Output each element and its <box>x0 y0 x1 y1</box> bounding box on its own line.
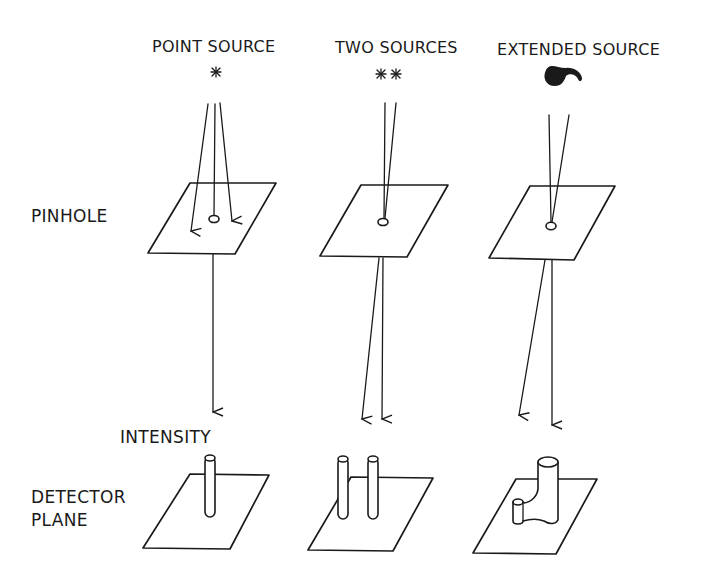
point-source-column <box>143 103 276 549</box>
ray-out-left <box>362 258 379 419</box>
extended-source-column <box>473 115 615 554</box>
intensity-peak-icon <box>338 456 348 519</box>
two-sources-column <box>308 103 448 551</box>
pinhole-aperture <box>546 222 556 230</box>
row-label-pinhole: PINHOLE <box>31 206 107 226</box>
pinhole-camera-diagram: POINT SOURCE TWO SOURCES EXTENDED SOURCE… <box>0 0 704 585</box>
double-asterisk-icon <box>376 69 401 79</box>
ray-out-right <box>382 258 383 419</box>
intensity-peak-icon <box>205 455 215 517</box>
pinhole-aperture <box>209 216 219 223</box>
column-title-extended-source: EXTENDED SOURCE <box>497 40 660 59</box>
row-label-detector: DETECTOR <box>31 487 126 507</box>
row-label-plane: PLANE <box>31 510 88 530</box>
row-label-intensity: INTENSITY <box>120 427 211 447</box>
ray-out-left <box>519 260 545 415</box>
column-title-two-sources: TWO SOURCES <box>334 38 458 57</box>
pinhole-aperture <box>378 219 388 226</box>
column-title-point-source: POINT SOURCE <box>152 37 275 56</box>
intensity-peak-icon <box>368 456 378 519</box>
asterisk-icon <box>211 67 221 77</box>
extended-source-blob-icon <box>544 66 582 86</box>
